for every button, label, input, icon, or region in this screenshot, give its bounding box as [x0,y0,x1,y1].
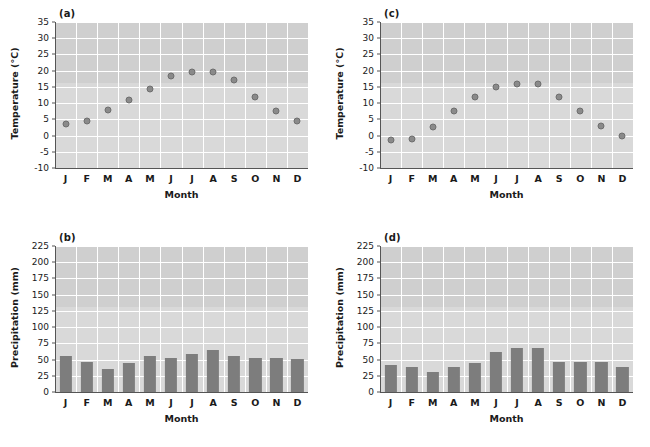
gridline-vertical [97,246,98,392]
y-tick-label: 25 [0,49,49,59]
y-tick-mark [377,103,380,104]
y-tick-label: 25 [0,371,49,381]
x-tick-label: D [619,173,627,184]
y-axis-title: Precipitation (mm) [9,235,20,401]
y-tick-mark [52,119,55,120]
y-tick-mark [52,375,55,376]
y-tick-mark [377,359,380,360]
panel-label-c: (c) [384,8,399,19]
gridline-vertical [182,246,183,392]
y-tick-label: 100 [325,322,374,332]
gridline-vertical [464,22,465,168]
y-tick-label: 30 [325,33,374,43]
gridline-vertical [422,22,423,168]
x-tick-label: A [450,173,457,184]
x-tick-label: M [428,397,437,408]
x-axis-title: Month [55,413,308,424]
data-point [104,106,111,113]
gridline-vertical [118,22,119,168]
x-tick-label: J [190,173,194,184]
x-tick-label: M [470,397,479,408]
x-tick-label: S [231,397,238,408]
gridline-vertical [528,246,529,392]
y-tick-label: 125 [0,306,49,316]
gridline-vertical [507,246,508,392]
y-tick-mark [377,22,380,23]
panel-c-temperature: (c)-10-505101520253035JFMAMJJASONDMonthT… [325,0,650,223]
gridline-vertical [97,22,98,168]
data-point [210,69,217,76]
panel-label-a: (a) [59,8,75,19]
bar [186,354,198,392]
y-tick-mark [52,38,55,39]
gridline-vertical [139,246,140,392]
data-point [514,80,521,87]
x-tick-label: F [408,397,415,408]
gridline-vertical [485,22,486,168]
data-point [252,93,259,100]
x-tick-label: J [515,397,519,408]
gridline-vertical [612,246,613,392]
bar [384,365,396,392]
bar [469,363,481,392]
data-point [492,83,499,90]
bar [81,362,93,392]
x-tick-label: O [576,173,584,184]
gridline-vertical [443,22,444,168]
y-tick-label: 200 [325,257,374,267]
gridline-vertical [203,22,204,168]
gridline-vertical [266,246,267,392]
bar [165,358,177,392]
y-tick-mark [52,278,55,279]
bar [448,367,460,392]
y-tick-mark [377,168,380,169]
y-tick-mark [377,262,380,263]
x-tick-label: A [534,173,541,184]
x-tick-label: J [515,173,519,184]
y-tick-mark [377,38,380,39]
data-point [273,108,280,115]
y-tick-label: 0 [0,387,49,397]
y-tick-mark [377,294,380,295]
data-point [619,132,626,139]
gridline-vertical [549,22,550,168]
gridline-vertical [570,22,571,168]
gridline-vertical [224,246,225,392]
y-tick-mark [52,54,55,55]
climate-figure: (a)-10-505101520253035JFMAMJJASONDMonthT… [0,0,650,447]
x-tick-label: A [209,173,216,184]
gridline-vertical [160,22,161,168]
y-tick-label: 20 [325,66,374,76]
gridline-vertical [570,246,571,392]
y-tick-mark [52,343,55,344]
x-tick-label: F [83,173,90,184]
x-tick-label: J [494,397,498,408]
y-tick-mark [52,262,55,263]
bar [144,356,156,392]
gridline-vertical [118,246,119,392]
panel-d-precipitation: (d)0255075100125150175200225JFMAMJJASOND… [325,224,650,447]
plot-area [55,22,308,168]
x-tick-label: D [294,397,302,408]
x-tick-label: D [294,173,302,184]
y-tick-mark [377,278,380,279]
bar [59,356,71,392]
bar [228,356,240,392]
y-axis-line [380,22,381,168]
bar [427,372,439,392]
gridline-vertical [464,246,465,392]
x-axis-line [55,392,308,393]
data-point [231,77,238,84]
y-tick-label: 75 [0,338,49,348]
x-tick-label: M [145,397,154,408]
bar [595,362,607,392]
y-tick-label: -10 [0,163,49,173]
gridline-vertical [224,22,225,168]
data-point [387,137,394,144]
panel-b-precipitation: (b)0255075100125150175200225JFMAMJJASOND… [0,224,325,447]
x-tick-label: J [190,397,194,408]
x-tick-label: A [534,397,541,408]
plot-inner [55,22,308,168]
y-tick-mark [52,86,55,87]
data-point [598,122,605,129]
